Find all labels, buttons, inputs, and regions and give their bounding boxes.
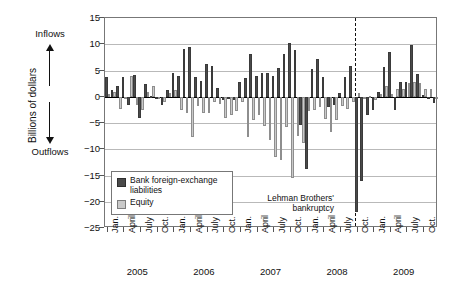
bar: [388, 52, 391, 97]
bar: [227, 97, 230, 100]
x-axis-tick: [307, 227, 308, 232]
bar: [119, 97, 122, 109]
bar: [172, 73, 175, 97]
chart-figure: Inflows Outflows Billions of dollars 151…: [0, 0, 451, 288]
bar: [249, 54, 252, 97]
x-axis-tick-labels: Jan.AprilJulyOct.Jan.AprilJulyOct.Jan.Ap…: [104, 233, 437, 267]
x-axis-tick-label: Oct.: [360, 216, 370, 233]
bar: [155, 97, 158, 99]
legend-swatch-icon-dark: [117, 178, 126, 187]
bar: [377, 92, 380, 97]
bar: [133, 75, 136, 97]
legend-label-equity: Equity: [130, 198, 154, 208]
bar: [144, 84, 147, 97]
bar: [111, 90, 114, 97]
x-axis-tick: [357, 227, 358, 232]
x-axis-tick: [157, 227, 158, 232]
bar: [341, 97, 344, 106]
x-axis-tick: [340, 227, 341, 232]
bar: [308, 97, 311, 111]
bar: [194, 77, 197, 96]
x-axis-tick-label: Jan.: [310, 216, 320, 233]
bar: [346, 97, 349, 110]
x-axis-tick: [406, 227, 407, 232]
bar: [272, 76, 275, 96]
bar: [202, 97, 205, 113]
bar: [374, 97, 377, 100]
x-axis-tick: [257, 227, 258, 232]
arrow-down-icon: [46, 137, 54, 144]
bar: [283, 54, 286, 97]
bar: [177, 76, 180, 97]
x-axis-tick: [273, 227, 274, 232]
bar: [180, 97, 183, 110]
bar: [285, 97, 288, 127]
bar: [205, 64, 208, 97]
legend-swatch-icon-light: [117, 200, 126, 209]
bar: [311, 69, 314, 97]
x-axis-tick: [390, 227, 391, 232]
bar: [235, 97, 238, 111]
x-axis-tick-label: April: [127, 215, 137, 233]
y-axis-tick-labels: 151050−5−10−15−20−25: [74, 17, 100, 227]
x-axis-tick-label: April: [327, 215, 337, 233]
bar: [183, 49, 186, 97]
bar: [394, 97, 397, 110]
bar: [366, 97, 369, 115]
bar: [360, 97, 363, 181]
chart-legend: Bank foreign-exchange liabilities Equity: [111, 171, 233, 215]
x-axis-tick: [423, 227, 424, 232]
bar: [252, 97, 255, 120]
bar: [427, 97, 430, 99]
x-axis-tick-label: July: [410, 217, 420, 233]
x-axis-tick-label: April: [194, 215, 204, 233]
x-axis-tick-label: Jan.: [377, 216, 387, 233]
y-axis-title: Billions of dollars: [27, 26, 38, 186]
bar: [233, 97, 236, 101]
x-axis-tick: [190, 227, 191, 232]
x-axis-tick-label: Oct.: [293, 216, 303, 233]
bar: [258, 97, 261, 115]
bar: [335, 97, 338, 121]
bar: [255, 76, 258, 97]
bar: [191, 97, 194, 137]
bar: [247, 97, 250, 137]
bar: [416, 74, 419, 97]
bar: [305, 97, 308, 169]
bar: [333, 97, 336, 105]
bar: [405, 82, 408, 97]
x-axis-year-label: 2006: [193, 266, 214, 277]
bar: [327, 97, 330, 108]
x-axis-tick-label: April: [260, 215, 270, 233]
x-axis-tick: [373, 227, 374, 232]
x-axis-year-labels: 20052006200720082009: [104, 266, 437, 282]
bar: [399, 82, 402, 97]
x-axis-tick-label: Oct.: [160, 216, 170, 233]
outflow-arrow-icon: [49, 102, 50, 138]
x-axis-tick: [140, 227, 141, 232]
bar: [224, 97, 227, 118]
bar: [410, 45, 413, 96]
bar: [238, 82, 241, 97]
bar: [152, 86, 155, 97]
bar: [263, 97, 266, 126]
legend-item-equity: Equity: [117, 198, 227, 209]
bar: [422, 95, 425, 97]
x-axis-tick: [223, 227, 224, 232]
bar: [222, 97, 225, 100]
bar: [424, 89, 427, 96]
bar: [141, 97, 144, 110]
bar: [274, 97, 277, 157]
bar: [200, 81, 203, 97]
inflow-arrow-icon: [49, 50, 50, 86]
x-axis-tick-label: Oct.: [427, 216, 437, 233]
x-axis-tick: [323, 227, 324, 232]
bar: [355, 97, 358, 213]
legend-item-bank-fx: Bank foreign-exchange liabilities: [117, 176, 227, 195]
x-axis-year-label: 2008: [327, 266, 348, 277]
arrow-up-icon: [46, 44, 54, 51]
bar: [313, 97, 316, 110]
bar: [127, 97, 130, 105]
bar: [122, 77, 125, 97]
bar: [322, 77, 325, 97]
